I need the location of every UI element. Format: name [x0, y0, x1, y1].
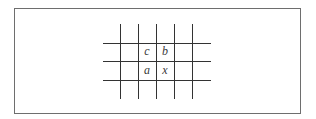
cell-label-a: a	[144, 64, 150, 76]
cell-label-c: c	[144, 45, 149, 57]
cell-label-b: b	[162, 45, 168, 57]
cell-label-x: x	[162, 64, 167, 76]
grid-lines	[0, 0, 316, 119]
